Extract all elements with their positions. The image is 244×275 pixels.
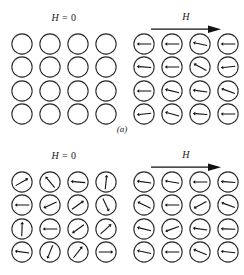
- moment-arrow-shaft: [224, 204, 235, 208]
- domain-circle-outline: [40, 34, 60, 54]
- moment-arrow-shaft: [16, 179, 26, 185]
- domain-cell: [130, 79, 158, 103]
- domain-cell: [92, 79, 120, 103]
- domain-circle-outline: [12, 57, 32, 77]
- domain-circle: [11, 79, 34, 102]
- moment-arrow-head: [137, 249, 140, 253]
- moment-arrow-head: [221, 112, 224, 116]
- domain-circle: [67, 241, 90, 264]
- moment-arrow-shaft: [139, 251, 151, 253]
- domain-cell: [130, 32, 158, 56]
- moment-arrow-head: [221, 250, 224, 254]
- moment-arrow-shaft: [105, 177, 106, 189]
- domain-circle: [189, 103, 212, 126]
- domain-cell: [92, 56, 120, 80]
- moment-arrow-shaft: [223, 66, 235, 67]
- subfigure-b: H = 0 H (b): [0, 138, 244, 275]
- moment-arrow-head: [15, 250, 18, 254]
- domain-cell: [158, 170, 186, 194]
- moment-arrow-head: [221, 180, 224, 184]
- domain-cell: [158, 241, 186, 265]
- domain-circle: [133, 32, 156, 55]
- domain-cell: [214, 241, 242, 265]
- domain-circle: [217, 170, 240, 193]
- domain-circle-outline: [40, 81, 60, 101]
- domain-cell: [186, 170, 214, 194]
- domain-circle: [67, 194, 90, 217]
- domain-cell: [8, 194, 36, 218]
- domain-cell: [8, 170, 36, 194]
- domain-circle: [39, 217, 62, 240]
- moment-arrow-head: [137, 89, 140, 93]
- domain-grid-b-applied: [130, 170, 242, 264]
- domain-cell: [92, 170, 120, 194]
- moment-arrow-head: [137, 65, 140, 69]
- domain-circle: [67, 217, 90, 240]
- domain-cell: [92, 32, 120, 56]
- domain-circle-outline: [40, 57, 60, 77]
- moment-arrow-shaft: [167, 181, 179, 183]
- moment-arrow-shaft: [48, 245, 52, 256]
- domain-cell: [158, 79, 186, 103]
- moment-arrow-shaft: [224, 89, 235, 93]
- moment-arrow-shaft: [223, 252, 235, 253]
- field-label-b-applied: H: [130, 144, 242, 170]
- domain-circle: [95, 56, 118, 79]
- domain-circle: [39, 56, 62, 79]
- domain-cell: [130, 56, 158, 80]
- moment-arrow-head: [165, 42, 168, 46]
- domain-circle-outline: [68, 104, 88, 124]
- domain-cell: [214, 56, 242, 80]
- moment-arrow-shaft: [139, 67, 151, 68]
- moment-arrow-shaft: [103, 199, 108, 210]
- domain-circle: [11, 103, 34, 126]
- panel-a-applied-field: H: [130, 6, 242, 126]
- caption-a: (a): [0, 124, 244, 135]
- domain-circle: [161, 32, 184, 55]
- domain-cell: [214, 32, 242, 56]
- magnetic-domain-figure: H = 0 H (a) H = 0: [0, 0, 244, 275]
- domain-circle-outline: [68, 57, 88, 77]
- domain-circle: [217, 194, 240, 217]
- domain-cell: [158, 32, 186, 56]
- domain-cell: [214, 170, 242, 194]
- domain-circle-outline: [96, 57, 116, 77]
- field-label-a-zero-text: H = 0: [52, 12, 77, 24]
- panel-a-zero-field: H = 0: [8, 6, 120, 126]
- domain-circle: [133, 103, 156, 126]
- domain-cell: [130, 194, 158, 218]
- domain-circle: [39, 170, 62, 193]
- moment-arrow-head: [137, 42, 140, 46]
- moment-arrow-shaft: [195, 114, 207, 115]
- domain-cell: [214, 79, 242, 103]
- moment-arrow-head: [137, 179, 140, 183]
- domain-cell: [158, 103, 186, 127]
- domain-cell: [36, 194, 64, 218]
- domain-circle: [11, 170, 34, 193]
- domain-circle: [189, 241, 212, 264]
- domain-circle: [133, 241, 156, 264]
- domain-circle: [67, 79, 90, 102]
- domain-circle: [39, 194, 62, 217]
- panel-b-applied-field: H: [130, 144, 242, 264]
- domain-circle: [67, 56, 90, 79]
- domain-circle: [39, 241, 62, 264]
- domain-grid-a-applied: [130, 32, 242, 126]
- moment-arrow-head: [193, 180, 196, 184]
- domain-cell: [158, 194, 186, 218]
- domain-cell: [8, 217, 36, 241]
- moment-arrow-head: [71, 180, 74, 184]
- domain-cell: [186, 79, 214, 103]
- moment-arrow-head: [111, 250, 114, 254]
- domain-circle: [189, 79, 212, 102]
- domain-circle: [95, 32, 118, 55]
- domain-cell: [92, 241, 120, 265]
- domain-cell: [186, 56, 214, 80]
- moment-arrow-shaft: [140, 203, 151, 208]
- moment-arrow-head: [165, 88, 168, 92]
- domain-cell: [8, 241, 36, 265]
- moment-arrow-head: [15, 203, 18, 207]
- domain-circle-outline: [96, 34, 116, 54]
- moment-arrow-head: [221, 66, 224, 70]
- moment-arrow-shaft: [72, 203, 82, 210]
